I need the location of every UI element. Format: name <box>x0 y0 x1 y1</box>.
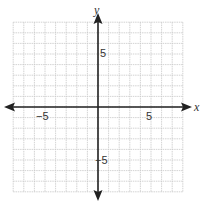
y-tick-label-neg5: −5 <box>95 154 108 166</box>
y-axis-label: y <box>93 3 100 17</box>
y-tick-label-pos5: 5 <box>100 47 106 59</box>
x-tick-label-pos5: 5 <box>146 110 152 122</box>
x-axis-label: x <box>193 100 200 114</box>
coordinate-plane: y x −5 5 5 −5 <box>0 0 202 206</box>
x-tick-label-neg5: −5 <box>36 110 49 122</box>
